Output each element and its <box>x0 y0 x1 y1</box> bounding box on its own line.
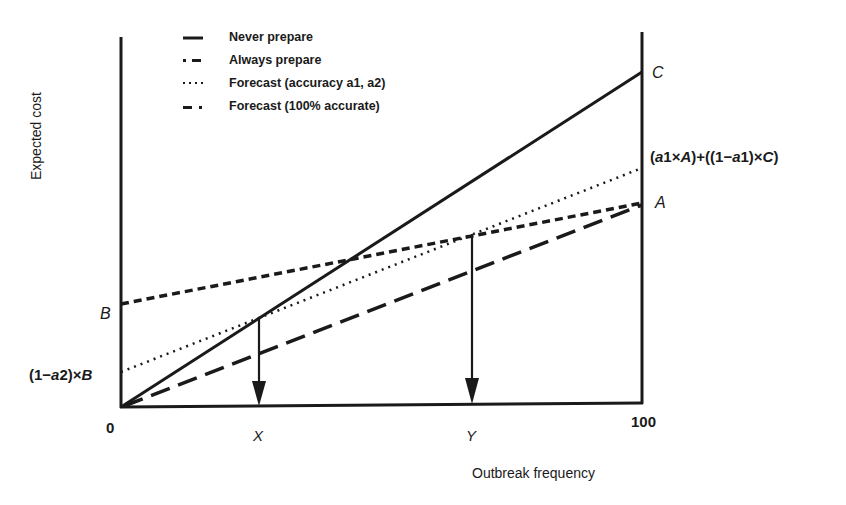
chart-canvas <box>0 0 846 505</box>
marker-c: C <box>652 64 664 82</box>
legend-label-forecast: Forecast (accuracy a1, a2) <box>229 76 385 90</box>
legend-swatch-perfect <box>183 106 202 109</box>
x-axis-label: Outbreak frequency <box>472 465 595 481</box>
legend-label-perfect: Forecast (100% accurate) <box>229 99 380 113</box>
x-tick-y: Y <box>466 427 476 444</box>
bottom-axis <box>120 403 643 407</box>
arrow-x-head <box>252 381 266 406</box>
x-tick-0: 0 <box>106 419 114 436</box>
legend-swatch-always <box>183 59 201 62</box>
x-tick-x: X <box>253 427 263 444</box>
legend-label-never: Never prepare <box>229 30 313 44</box>
arrow-y-head <box>465 378 479 404</box>
y-axis-label: Expected cost <box>28 92 44 180</box>
marker-forecast-right: (a1×A)+((1−a1)×C) <box>650 148 778 165</box>
line-always-prepare <box>121 203 642 304</box>
legend-label-always: Always prepare <box>229 53 321 67</box>
marker-a: A <box>655 194 666 212</box>
line-forecast-accuracy <box>121 168 642 372</box>
x-tick-100: 100 <box>631 413 656 430</box>
marker-forecast-left: (1−a2)×B <box>29 366 92 383</box>
line-forecast-perfect <box>124 205 642 406</box>
line-never-prepare <box>121 72 642 407</box>
marker-b: B <box>100 305 111 323</box>
